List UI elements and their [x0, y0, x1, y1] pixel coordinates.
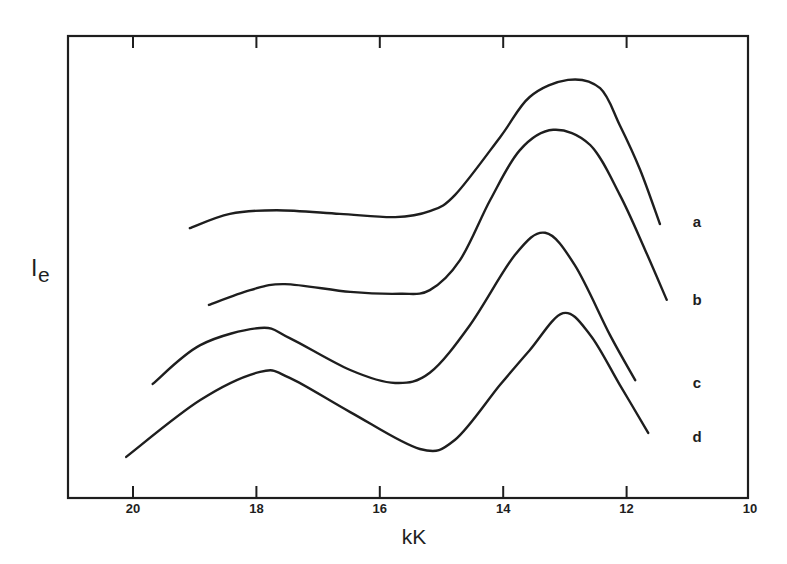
x-axis-label: kK [402, 525, 427, 548]
x-tick-label: 14 [496, 501, 511, 516]
series-label-b: b [692, 291, 701, 308]
x-tick-label: 20 [126, 501, 140, 516]
curve-d [126, 313, 648, 457]
curve-c [153, 233, 636, 384]
curve-b [209, 130, 667, 305]
chart-canvas: 201816141210 abcd kK I e [0, 0, 787, 564]
x-tick-label: 18 [249, 501, 263, 516]
curves [126, 79, 667, 456]
series-label-c: c [693, 374, 701, 391]
x-tick-label: 16 [373, 501, 387, 516]
x-tick-label: 12 [619, 501, 633, 516]
y-axis-label-subscript: e [38, 263, 50, 286]
y-axis-label: I e [31, 255, 50, 286]
series-label-d: d [692, 428, 701, 445]
x-axis-tick-labels: 201816141210 [126, 501, 757, 516]
curve-a [190, 79, 660, 228]
series-label-a: a [693, 213, 702, 230]
x-tick-label: 10 [743, 501, 757, 516]
series-labels: abcd [692, 213, 701, 445]
y-axis-label-main: I [31, 255, 37, 281]
